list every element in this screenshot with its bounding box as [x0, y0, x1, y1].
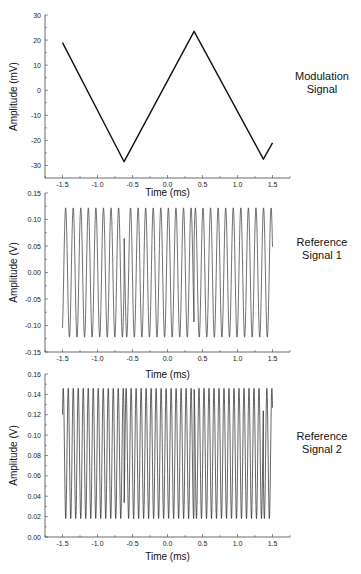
side-label-line: Reference	[297, 430, 348, 442]
figure: -1.5-1.0-0.50.00.51.01.5-30-20-100102030…	[0, 0, 361, 574]
chart-panel-2: -1.5-1.0-0.50.00.51.01.5-0.15-0.10-0.050…	[8, 190, 347, 381]
side-label-line: Signal 1	[302, 249, 342, 261]
y-tick-label: 0.05	[27, 243, 41, 250]
x-axis-title: Time (ms)	[145, 369, 190, 380]
y-tick-label: 0.10	[27, 216, 41, 223]
y-tick-label: 0	[37, 87, 41, 94]
y-tick-label: 10	[33, 62, 41, 69]
panel-side-label: ReferenceSignal 1	[297, 236, 348, 261]
series-line-modulation-signal	[63, 31, 273, 161]
y-tick-label: -0.10	[25, 322, 41, 329]
x-tick-label: 1.0	[233, 355, 243, 362]
y-tick-label: -0.15	[25, 349, 41, 356]
x-tick-label: 1.0	[233, 540, 243, 547]
side-label-line: Signal	[307, 83, 338, 95]
x-tick-label: -0.5	[126, 355, 138, 362]
side-label-line: Modulation	[295, 70, 349, 82]
x-tick-label: 1.5	[268, 355, 278, 362]
y-tick-label: 0.04	[27, 493, 41, 500]
y-tick-label: 0.06	[27, 472, 41, 479]
x-tick-label: -1.0	[91, 181, 103, 188]
side-label-line: Reference	[297, 236, 348, 248]
y-tick-label: 0.00	[27, 269, 41, 276]
x-tick-label: -1.5	[56, 540, 68, 547]
y-tick-label: 0.14	[27, 391, 41, 398]
y-tick-label: -20	[31, 137, 41, 144]
y-tick-label: 20	[33, 37, 41, 44]
y-axis-title: Amplitude (V)	[8, 242, 19, 303]
y-axis-title: Amplitude (mV)	[8, 62, 19, 131]
chart-panel-1: -1.5-1.0-0.50.00.51.01.5-30-20-100102030…	[8, 12, 349, 199]
x-tick-label: -0.5	[126, 181, 138, 188]
y-tick-label: 0.16	[27, 371, 41, 378]
y-tick-label: 0.02	[27, 513, 41, 520]
x-tick-label: 0.0	[163, 355, 173, 362]
x-tick-label: 1.0	[233, 181, 243, 188]
x-tick-label: 0.5	[198, 540, 208, 547]
y-tick-label: 0.12	[27, 411, 41, 418]
x-tick-label: -1.5	[56, 181, 68, 188]
x-tick-label: 1.5	[268, 540, 278, 547]
x-tick-label: -1.0	[91, 540, 103, 547]
x-tick-label: 1.5	[268, 181, 278, 188]
y-tick-label: -0.05	[25, 296, 41, 303]
y-tick-label: 0.10	[27, 432, 41, 439]
y-tick-label: 0.08	[27, 452, 41, 459]
x-tick-label: 0.5	[198, 181, 208, 188]
x-axis-title: Time (ms)	[145, 551, 190, 562]
x-tick-label: 0.5	[198, 355, 208, 362]
x-tick-label: 0.0	[163, 540, 173, 547]
y-tick-label: 0.15	[27, 190, 41, 197]
series-line-reference-signal-1	[63, 208, 273, 337]
x-tick-label: -1.0	[91, 355, 103, 362]
chart-panel-3: -1.5-1.0-0.50.00.51.01.50.000.020.040.06…	[8, 371, 347, 563]
y-tick-label: -30	[31, 162, 41, 169]
x-tick-label: -1.5	[56, 355, 68, 362]
x-axis-title: Time (ms)	[145, 187, 190, 198]
series-line-reference-signal-2	[63, 388, 273, 518]
x-tick-label: -0.5	[126, 540, 138, 547]
side-label-line: Signal 2	[302, 443, 342, 455]
y-tick-label: 0.00	[27, 534, 41, 541]
y-tick-label: 30	[33, 12, 41, 19]
panel-side-label: ModulationSignal	[295, 70, 349, 95]
panel-side-label: ReferenceSignal 2	[297, 430, 348, 455]
y-axis-title: Amplitude (V)	[8, 425, 19, 486]
y-tick-label: -10	[31, 112, 41, 119]
